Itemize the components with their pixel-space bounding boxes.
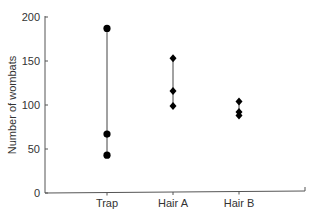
data-point [103, 130, 110, 137]
data-point [103, 25, 110, 32]
data-point [170, 54, 177, 62]
chart: 050100150200Number of wombatsTrapHair AH… [0, 0, 314, 216]
x-tick-label: Hair A [158, 197, 189, 209]
plot-area [103, 25, 242, 159]
x-tick-label: Trap [96, 197, 118, 209]
data-point [103, 152, 110, 159]
data-point [236, 97, 243, 105]
y-tick-label: 200 [22, 11, 40, 23]
y-tick-label: 0 [34, 187, 40, 199]
axes: 050100150200Number of wombatsTrapHair AH… [6, 11, 305, 209]
y-tick-label: 150 [22, 55, 40, 67]
y-tick-label: 100 [22, 99, 40, 111]
data-point [170, 87, 177, 95]
x-tick-label: Hair B [224, 197, 255, 209]
y-axis-label: Number of wombats [6, 55, 18, 154]
x-axis [45, 191, 305, 193]
data-point [170, 102, 177, 110]
y-tick-label: 50 [28, 143, 40, 155]
